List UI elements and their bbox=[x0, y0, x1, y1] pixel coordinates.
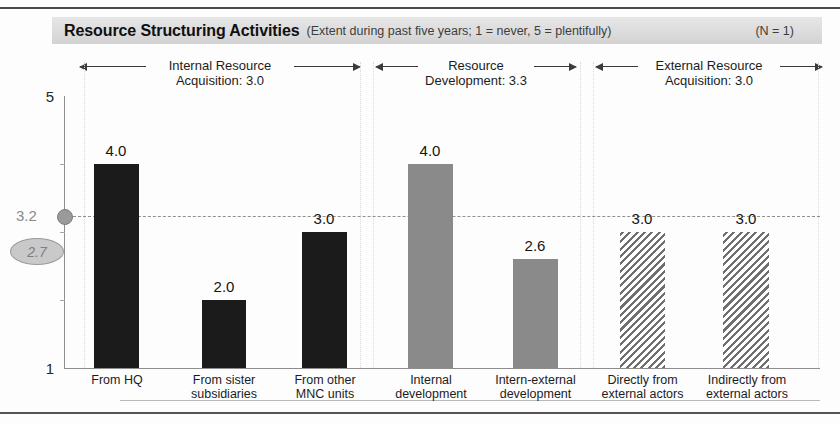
group-header-external-resource-acquisition: External Resource Acquisition: 3.0 bbox=[596, 58, 822, 100]
category-label-indirectly-from-external-actors: Indirectly from external actors bbox=[692, 373, 802, 401]
bar-value-from-hq: 4.0 bbox=[86, 142, 146, 159]
group-separator bbox=[84, 62, 85, 368]
sample-size-annotation: (N = 1) bbox=[755, 24, 810, 38]
y-axis-minor-tick bbox=[60, 300, 65, 301]
reference-marker-dot bbox=[57, 209, 73, 225]
bar-value-from-other-mnc-units: 3.0 bbox=[294, 210, 354, 227]
category-label-line1: From HQ bbox=[71, 373, 163, 387]
category-label-line1: From sister bbox=[176, 373, 272, 387]
bar-directly-from-external-actors bbox=[620, 232, 665, 368]
chart-title-band: Resource Structuring Activities (Extent … bbox=[52, 17, 822, 44]
category-label-line2: subsidiaries bbox=[176, 387, 272, 401]
group-label-line2: Development: 3.3 bbox=[376, 73, 576, 88]
bar-value-intern-external-development: 2.6 bbox=[505, 237, 565, 254]
category-label-intern-external-development: Intern-external development bbox=[483, 373, 588, 401]
group-label: Resource Development: 3.3 bbox=[376, 58, 576, 88]
category-label-internal-development: Internal development bbox=[382, 373, 480, 401]
group-label-line2: Acquisition: 3.0 bbox=[596, 73, 822, 88]
group-label-line1: Resource bbox=[376, 58, 576, 73]
secondary-marker-label: 2.7 bbox=[27, 244, 46, 260]
y-axis-line bbox=[64, 96, 65, 369]
bar-from-hq bbox=[94, 164, 139, 368]
category-label-from-sister-subsidiaries: From sister subsidiaries bbox=[176, 373, 272, 401]
chart-subtitle: (Extent during past five years; 1 = neve… bbox=[306, 24, 611, 38]
y-axis-minor-tick bbox=[60, 232, 65, 233]
category-label-line2: MNC units bbox=[277, 387, 373, 401]
category-label-line1: Intern-external bbox=[483, 373, 588, 387]
bar-value-from-sister-subsidiaries: 2.0 bbox=[194, 278, 254, 295]
bar-value-directly-from-external-actors: 3.0 bbox=[612, 210, 672, 227]
category-label-from-hq: From HQ bbox=[71, 373, 163, 387]
secondary-marker-badge: 2.7 bbox=[10, 238, 64, 265]
reference-value-label: 3.2 bbox=[16, 207, 37, 224]
category-label-line1: From other bbox=[277, 373, 373, 387]
chart-title: Resource Structuring Activities bbox=[64, 22, 299, 40]
chart-figure: Resource Structuring Activities (Extent … bbox=[0, 0, 840, 425]
bar-intern-external-development bbox=[513, 259, 558, 368]
group-label-line1: Internal Resource bbox=[80, 58, 360, 73]
category-label-from-other-mnc-units: From other MNC units bbox=[277, 373, 373, 401]
category-label-line2: development bbox=[382, 387, 480, 401]
group-label-line1: External Resource bbox=[596, 58, 822, 73]
bar-value-indirectly-from-external-actors: 3.0 bbox=[716, 210, 776, 227]
group-label-line2: Acquisition: 3.0 bbox=[80, 73, 360, 88]
page-rule-thin bbox=[120, 400, 820, 401]
x-axis-line bbox=[64, 368, 820, 369]
category-label-line1: Directly from bbox=[589, 373, 696, 387]
group-header-resource-development: Resource Development: 3.3 bbox=[376, 58, 576, 100]
group-label: External Resource Acquisition: 3.0 bbox=[596, 58, 822, 88]
category-label-line2: external actors bbox=[692, 387, 802, 401]
page-rule-bottom bbox=[0, 412, 840, 414]
category-label-line1: Indirectly from bbox=[692, 373, 802, 387]
bar-indirectly-from-external-actors bbox=[723, 232, 769, 368]
group-separator bbox=[593, 62, 594, 368]
reference-line bbox=[68, 216, 820, 217]
category-label-line2: development bbox=[483, 387, 588, 401]
group-separator bbox=[818, 62, 819, 368]
y-axis-tick-top: 5 bbox=[28, 88, 54, 105]
group-separator bbox=[580, 62, 581, 368]
group-separator bbox=[360, 62, 361, 368]
group-separator bbox=[373, 62, 374, 368]
category-label-line1: Internal bbox=[382, 373, 480, 387]
page-rule-top bbox=[0, 7, 840, 9]
bar-from-other-mnc-units bbox=[302, 232, 347, 368]
group-header-internal-resource-acquisition: Internal Resource Acquisition: 3.0 bbox=[80, 58, 360, 100]
group-label: Internal Resource Acquisition: 3.0 bbox=[80, 58, 360, 88]
bar-internal-development bbox=[408, 164, 453, 368]
y-axis-tick-bottom: 1 bbox=[28, 360, 54, 377]
bar-value-internal-development: 4.0 bbox=[400, 142, 460, 159]
category-label-line2: external actors bbox=[589, 387, 696, 401]
y-axis-minor-tick bbox=[60, 164, 65, 165]
bar-from-sister-subsidiaries bbox=[202, 300, 246, 368]
category-label-directly-from-external-actors: Directly from external actors bbox=[589, 373, 696, 401]
